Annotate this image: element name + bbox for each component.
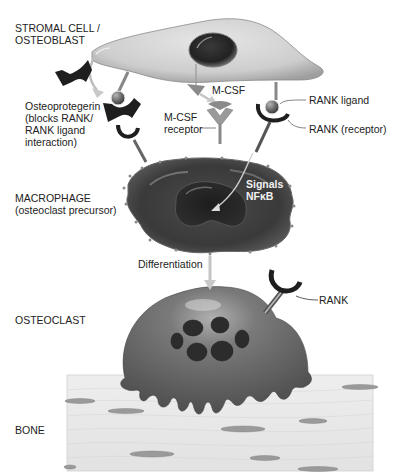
rank-label: RANK xyxy=(319,294,348,307)
bone-label: BONE xyxy=(15,424,45,437)
macrophage-label-line2: (osteoclast precursor) xyxy=(15,204,117,217)
osteoprotegerin-label-line3: RANK ligand xyxy=(25,124,85,137)
osteoprotegerin-label-line2: (blocks RANK/ xyxy=(25,112,93,125)
osteoclast-differentiation-diagram xyxy=(0,0,393,476)
right-rank-ligand-complex xyxy=(256,82,306,152)
right-rank-ligand-ball xyxy=(265,100,279,114)
differentiation-label: Differentiation xyxy=(138,258,203,271)
osteoclast-rank-receptor xyxy=(265,270,318,313)
mcsf-release-arrow xyxy=(200,94,210,100)
rank-receptor-label: RANK (receptor) xyxy=(309,123,387,136)
nfkb-label: NFκB xyxy=(246,190,273,202)
stromal-cell-label-line2: OSTEOBLAST xyxy=(15,34,85,47)
left-rank-ligand-ball xyxy=(111,91,125,105)
macrophage-label-line1: MACROPHAGE xyxy=(15,192,91,205)
mcsf-receptor-label-line2: receptor xyxy=(164,123,203,136)
macrophage-cell xyxy=(123,157,296,256)
stromal-cell-label-line1: STROMAL CELL / xyxy=(15,22,100,35)
osteoprotegerin-label-line1: Osteoprotegerin xyxy=(25,100,100,113)
osteoclast-cell xyxy=(121,287,312,414)
left-rank-ligand-complex xyxy=(103,72,146,162)
mcsf-label: M-CSF xyxy=(212,84,245,97)
signals-label: Signals xyxy=(246,178,283,190)
mcsf-receptor xyxy=(207,108,233,124)
opg-secretion-arrowhead xyxy=(92,88,104,98)
mcsf-receptor-label-line1: M-CSF xyxy=(164,111,197,124)
osteoprotegerin-label-line4: interaction) xyxy=(25,136,77,149)
differentiation-arrow xyxy=(204,256,216,290)
osteoclast-label: OSTEOCLAST xyxy=(15,314,86,327)
stromal-nucleus xyxy=(189,33,237,67)
free-osteoprotegerin xyxy=(55,60,92,86)
rank-ligand-label: RANK ligand xyxy=(309,94,369,107)
left-rank-receptor xyxy=(118,125,138,137)
